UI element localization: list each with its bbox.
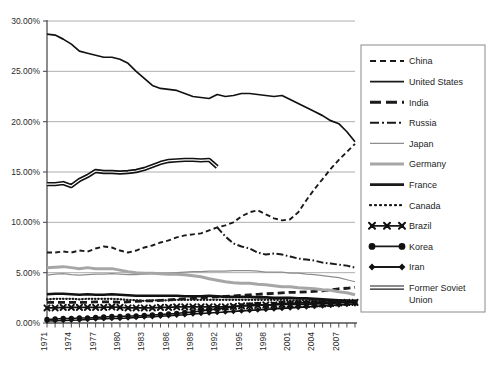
chart-legend: ChinaUnited StatesIndiaRussiaJapanGerman… [361, 45, 485, 312]
y-axis-tick-label: 10.00% [11, 217, 40, 227]
data-marker [279, 301, 284, 306]
legend-label: Germany [409, 159, 447, 169]
legend-label: France [409, 180, 437, 190]
legend-label: Union [409, 295, 433, 305]
legend-item-japan[interactable]: Japan [363, 134, 483, 152]
legend-item-canada[interactable]: Canada [363, 196, 483, 214]
y-axis-tick-label: 20.00% [11, 117, 40, 127]
x-axis-tick-label: 1992 [209, 332, 219, 351]
x-axis-tick-label: 1989 [185, 332, 195, 351]
legend-item-iran[interactable]: Iran [363, 258, 483, 276]
x-axis-tick-label: 1986 [161, 332, 171, 351]
legend-label: India [409, 98, 429, 108]
legend-marker [399, 243, 406, 250]
x-axis-tick-label: 2004 [306, 332, 316, 351]
legend-label: China [409, 56, 433, 66]
x-axis-tick-label: 1974 [63, 332, 73, 351]
x-axis-tick-label: 1998 [258, 332, 268, 351]
data-marker [247, 302, 252, 307]
legend-label: Former Soviet [409, 283, 466, 293]
legend-item-india[interactable]: India [363, 93, 483, 111]
data-marker [239, 303, 244, 308]
y-axis-tick-label: 25.00% [11, 66, 40, 76]
legend-item-brazil[interactable]: Brazil [363, 217, 483, 235]
x-axis-tick-label: 2007 [331, 332, 341, 351]
y-axis-tick-label: 5.00% [16, 268, 41, 278]
legend-label: Russia [409, 118, 437, 128]
legend-item-united-states[interactable]: United States [363, 73, 483, 91]
x-axis-tick-label: 1977 [88, 332, 98, 351]
legend-item-france[interactable]: France [363, 176, 483, 194]
x-axis-tick-label: 2001 [282, 332, 292, 351]
y-axis-tick-label: 0.00% [16, 318, 41, 328]
x-axis-tick-label: 1995 [234, 332, 244, 351]
legend-label: Iran [409, 262, 425, 272]
y-axis-tick-label: 30.00% [11, 16, 40, 26]
line-chart: 0.00%5.00%10.00%15.00%20.00%25.00%30.00%… [0, 0, 489, 372]
legend-item-russia[interactable]: Russia [363, 114, 483, 132]
legend-item-china[interactable]: China [363, 52, 483, 70]
chart-container: 0.00%5.00%10.00%15.00%20.00%25.00%30.00%… [0, 0, 489, 372]
y-axis-tick-label: 15.00% [11, 167, 40, 177]
legend-marker [369, 243, 376, 250]
legend-item-germany[interactable]: Germany [363, 155, 483, 173]
data-marker [255, 302, 260, 307]
x-axis-tick-label: 1971 [39, 332, 49, 351]
legend-label: Korea [409, 242, 433, 252]
legend-item-korea[interactable]: Korea [363, 237, 483, 255]
x-axis-tick-label: 1980 [112, 332, 122, 351]
x-axis-tick-label: 1983 [136, 332, 146, 351]
legend-label: Japan [409, 139, 434, 149]
legend-label: Brazil [409, 221, 432, 231]
legend-label: United States [409, 77, 464, 87]
legend-label: Canada [409, 201, 441, 211]
